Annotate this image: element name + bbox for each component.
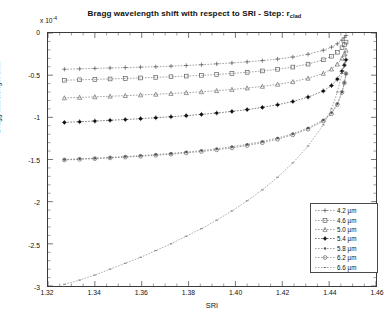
y-axis-multiplier-exponent: -4: [52, 15, 56, 21]
y-tick-label: -1.5: [28, 156, 44, 163]
legend-label: 5.4 µm: [337, 235, 356, 242]
y-tick-label: 0: [36, 29, 44, 36]
x-tick-label: 1.38: [182, 289, 195, 296]
legend-marker-icon: [314, 263, 336, 272]
legend-item[interactable]: 4.2 µm: [311, 206, 377, 215]
legend-item[interactable]: 5.4 µm: [311, 234, 377, 243]
x-tick-label: 1.46: [370, 289, 383, 296]
legend-marker-icon: [314, 216, 336, 225]
legend-item[interactable]: 5.0 µm: [311, 225, 377, 234]
legend-label: 6.6 µm: [337, 264, 356, 271]
legend-label: 6.2 µm: [337, 254, 356, 261]
y-tick-label: -2: [34, 199, 44, 206]
y-axis-tick-labels: 0-0.5-1-1.5-2-2.5-3: [0, 32, 44, 287]
chart-figure: Bragg wavelength shift with respect to S…: [0, 0, 389, 319]
y-axis-multiplier-base: x 10: [40, 17, 52, 24]
x-tick-label: 1.44: [323, 289, 336, 296]
chart-title: Bragg wavelength shift with respect to S…: [0, 9, 389, 19]
legend-marker-icon: [314, 253, 336, 262]
x-tick-label: 1.34: [88, 289, 101, 296]
legend-label: 4.6 µm: [337, 217, 356, 224]
legend-item[interactable]: 5.8 µm: [311, 244, 377, 253]
x-tick-label: 1.36: [135, 289, 148, 296]
legend-item[interactable]: 6.6 µm: [311, 262, 377, 271]
legend-marker-icon: [314, 206, 336, 215]
y-tick-label: -0.5: [28, 71, 44, 78]
x-tick-label: 1.40: [229, 289, 242, 296]
y-tick-label: -2.5: [28, 241, 44, 248]
chart-title-text: Bragg wavelength shift with respect to S…: [88, 9, 290, 18]
legend-marker-icon: [314, 225, 336, 234]
x-axis-label: SRI: [47, 301, 377, 310]
legend-item[interactable]: 6.2 µm: [311, 253, 377, 262]
legend-label: 5.0 µm: [337, 226, 356, 233]
chart-title-subscript: clad: [290, 13, 302, 19]
legend-marker-icon: [314, 244, 336, 253]
y-axis-multiplier: x 10-4: [40, 15, 57, 24]
y-tick-label: -1: [34, 114, 44, 121]
x-tick-label: 1.32: [40, 289, 53, 296]
legend-label: 4.2 µm: [337, 207, 356, 214]
legend-label: 5.8 µm: [337, 245, 356, 252]
legend: 4.2 µm4.6 µm5.0 µm5.4 µm5.8 µm6.2 µm6.6 …: [310, 203, 378, 273]
legend-marker-icon: [314, 234, 336, 243]
legend-item[interactable]: 4.6 µm: [311, 215, 377, 224]
x-tick-label: 1.42: [276, 289, 289, 296]
y-axis-label: Bragg wavelength shift: [0, 18, 1, 178]
